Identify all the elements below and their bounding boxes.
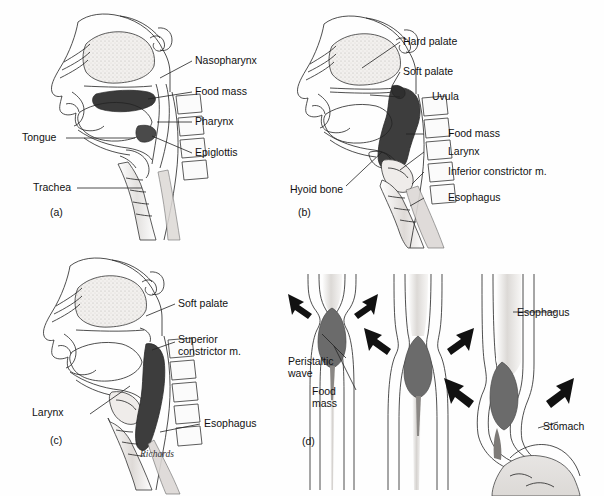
panel-c-id: (c) xyxy=(50,434,62,446)
panel-d: Esophagus Stomach Peristaltic wave Food … xyxy=(288,250,604,496)
label-b-food-mass: Food mass xyxy=(448,128,500,140)
artist-signature: Richards xyxy=(140,449,174,459)
panel-b-id: (b) xyxy=(298,206,311,218)
food-mass-bolus-2 xyxy=(404,336,432,398)
panel-d-id: (d) xyxy=(302,435,315,447)
label-d-food-mass-line1: Food xyxy=(312,386,336,398)
label-a-epiglottis: Epiglottis xyxy=(195,147,238,159)
epiglottis-shape-a xyxy=(136,125,156,142)
stomach-shape xyxy=(492,455,580,496)
peristaltic-arrow-3 xyxy=(364,328,391,355)
label-c-superior-constrictor-line1: Superior xyxy=(178,334,218,346)
label-b-larynx: Larynx xyxy=(448,146,480,158)
label-c-soft-palate: Soft palate xyxy=(178,298,228,310)
panel-b: Hard palate Soft palate Uvula Food mass … xyxy=(288,0,604,248)
label-d-esophagus: Esophagus xyxy=(517,307,570,319)
peristaltic-arrow-5 xyxy=(444,378,474,408)
label-b-soft-palate: Soft palate xyxy=(403,66,453,78)
label-c-superior-constrictor-line2: constrictor m. xyxy=(178,346,241,358)
label-d-peristaltic-wave-line2: wave xyxy=(288,368,313,380)
label-d-peristaltic-wave-line1: Peristaltic xyxy=(288,356,334,368)
label-b-hyoid-bone: Hyoid bone xyxy=(290,184,343,196)
label-a-food-mass: Food mass xyxy=(195,86,247,98)
food-mass-shape-a xyxy=(93,90,156,112)
label-a-tongue: Tongue xyxy=(22,132,56,144)
panel-c: Soft palate Superior constrictor m. Esop… xyxy=(0,246,302,496)
label-c-esophagus: Esophagus xyxy=(204,418,257,430)
label-d-stomach: Stomach xyxy=(543,421,584,433)
larynx-shape-c xyxy=(109,392,141,425)
swallowing-figure: Nasopharynx Food mass Pharynx Epiglottis… xyxy=(0,0,604,496)
label-b-uvula: Uvula xyxy=(432,91,459,103)
panel-a-id: (a) xyxy=(50,206,63,218)
food-mass-shape-c xyxy=(136,344,165,451)
panel-a-illustration xyxy=(0,0,302,248)
panel-d-illustration xyxy=(288,250,604,496)
label-a-pharynx: Pharynx xyxy=(195,116,234,128)
label-d-food-mass-line2: mass xyxy=(312,398,337,410)
label-a-nasopharynx: Nasopharynx xyxy=(195,55,257,67)
label-b-inferior-constrictor: Inferior constrictor m. xyxy=(448,166,547,178)
peristaltic-arrow-6 xyxy=(546,378,574,408)
label-a-trachea: Trachea xyxy=(33,182,71,194)
peristaltic-arrow-4 xyxy=(447,328,474,355)
panel-a: Nasopharynx Food mass Pharynx Epiglottis… xyxy=(0,0,302,248)
label-b-hard-palate: Hard palate xyxy=(403,36,457,48)
label-c-larynx: Larynx xyxy=(32,407,64,419)
peristaltic-arrow-2 xyxy=(354,294,378,319)
label-b-esophagus: Esophagus xyxy=(448,192,501,204)
peristaltic-arrow-1 xyxy=(288,294,312,319)
